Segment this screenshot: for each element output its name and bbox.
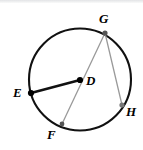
vertex-dot-d	[77, 77, 83, 83]
segment-ed	[31, 80, 80, 93]
vertex-dot-g	[102, 30, 107, 35]
vertex-label-h: H	[126, 105, 136, 118]
vertex-label-d: D	[86, 74, 95, 87]
vertex-dot-h	[119, 102, 124, 107]
segment-gh	[105, 33, 122, 105]
vertex-label-g: G	[99, 12, 108, 25]
segment-gf	[62, 33, 105, 124]
vertex-label-e: E	[13, 86, 22, 99]
segment-group	[31, 33, 122, 124]
geometry-canvas	[0, 0, 143, 150]
vertex-dot-e	[28, 90, 34, 96]
circle-geometry-figure: EGDHF	[0, 0, 143, 150]
vertex-label-f: F	[47, 128, 56, 141]
vertex-dot-f	[60, 122, 65, 127]
